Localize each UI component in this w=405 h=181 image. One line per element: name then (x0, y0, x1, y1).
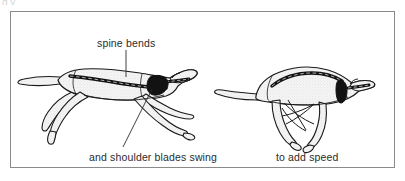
right-cheetah-scapula-blade (336, 80, 347, 103)
left-cheetah-tail (18, 77, 65, 86)
right-cheetah-foreleg (307, 102, 326, 148)
left-cheetah-hind-foot (48, 131, 56, 144)
right-cheetah-hind-leg (272, 100, 297, 146)
panel-gathered-gallop (215, 67, 375, 152)
label-spine-bends: spine bends (97, 37, 155, 49)
figure-root: g y (0, 0, 405, 181)
label-shoulder-blades: and shoulder blades swing (89, 151, 217, 163)
right-cheetah-tail (215, 90, 262, 100)
panel-extended-gallop (18, 50, 197, 147)
right-cheetah-hind-paw (290, 142, 301, 150)
label-add-speed: to add speed (276, 151, 339, 163)
left-cheetah-fore-paw (183, 133, 195, 140)
